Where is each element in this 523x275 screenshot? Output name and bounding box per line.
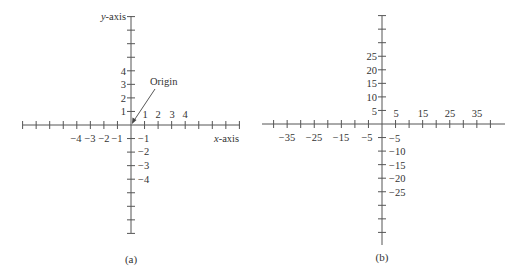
y-label-a-neg3: −3 <box>138 160 149 171</box>
x-label-a-2: 2 <box>155 109 160 120</box>
x-label-a-neg4: −4 <box>70 133 82 144</box>
x-label-a-neg1: −1 <box>111 133 122 144</box>
y-label-a-3: 3 <box>121 79 126 90</box>
panel-a: y-axis x-axis 1 2 3 4 −1 −2 −3 −4 1 2 3 … <box>23 11 240 266</box>
x-label-b-25: 25 <box>445 108 456 119</box>
x-label-b-neg25: −25 <box>306 132 322 143</box>
y-label-a-1: 1 <box>121 106 126 117</box>
y-label-b-10: 10 <box>367 92 378 103</box>
y-label-b-neg15: −15 <box>389 160 405 171</box>
y-label-b-25: 25 <box>367 51 378 62</box>
panel-b: 5 10 15 20 25 −5 −10 −15 −20 −25 5 15 25… <box>262 16 505 264</box>
caption-a: (a) <box>125 253 138 266</box>
y-label-b-neg25: −25 <box>389 187 405 198</box>
y-label-b-neg5: −5 <box>389 133 400 144</box>
x-label-b-15: 15 <box>418 108 429 119</box>
y-label-a-4: 4 <box>121 66 127 77</box>
origin-label: Origin <box>150 76 178 87</box>
x-axis-label-a: x-axis <box>213 133 239 144</box>
x-label-b-neg15: −15 <box>333 132 349 143</box>
y-label-a-neg1: −1 <box>138 133 149 144</box>
x-label-b-35: 35 <box>472 108 483 119</box>
x-label-a-neg2: −2 <box>98 133 109 144</box>
y-label-b-neg20: −20 <box>389 173 405 184</box>
y-label-a-neg2: −2 <box>138 146 149 157</box>
x-label-a-4: 4 <box>182 109 188 120</box>
x-label-a-3: 3 <box>169 109 174 120</box>
x-label-a-1: 1 <box>142 109 147 120</box>
y-label-b-20: 20 <box>367 65 378 76</box>
x-label-b-neg35: −35 <box>279 132 295 143</box>
x-label-b-5: 5 <box>393 108 398 119</box>
y-label-a-2: 2 <box>121 93 126 104</box>
coordinate-diagrams: y-axis x-axis 1 2 3 4 −1 −2 −3 −4 1 2 3 … <box>0 0 523 275</box>
y-label-b-5: 5 <box>372 106 377 117</box>
x-label-a-neg3: −3 <box>84 133 95 144</box>
y-axis-label-a: y-axis <box>100 11 126 22</box>
caption-b: (b) <box>376 251 389 264</box>
y-label-b-15: 15 <box>367 78 378 89</box>
y-label-b-neg10: −10 <box>389 146 405 157</box>
x-label-b-neg5: −5 <box>361 132 372 143</box>
y-label-a-neg4: −4 <box>138 174 150 185</box>
